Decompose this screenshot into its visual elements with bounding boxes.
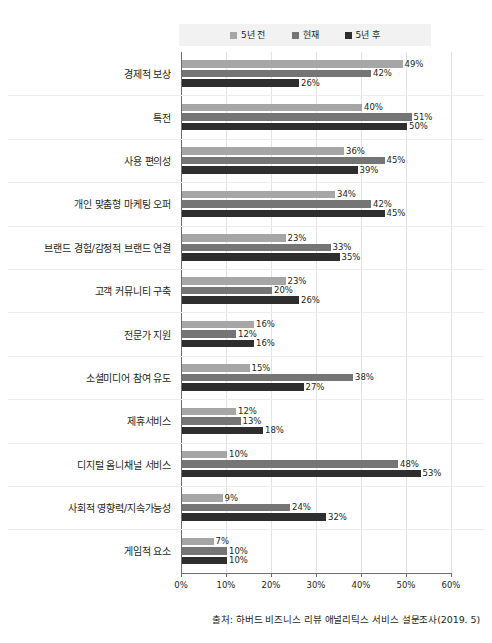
bar[interactable]: [182, 427, 263, 435]
bar-row: 38%: [182, 374, 492, 382]
bar[interactable]: [182, 123, 407, 131]
source-note: 출처: 하버드 비즈니스 리뷰 애널리틱스 서비스 설문조사(2019. 5): [0, 612, 480, 626]
bar-group: 전문가 지원16%12%16%: [0, 312, 492, 355]
bar[interactable]: [182, 383, 304, 391]
category-label: 소셜미디어 참여 유도: [0, 356, 175, 399]
bar[interactable]: [182, 157, 385, 165]
bar[interactable]: [182, 408, 236, 416]
bar-row: 42%: [182, 70, 492, 78]
bar-value-label: 24%: [292, 503, 311, 512]
bar-row: 45%: [182, 210, 492, 218]
bar[interactable]: [182, 253, 340, 261]
bar-row: 33%: [182, 244, 492, 252]
category-label: 사회적 영향력/지속가능성: [0, 486, 175, 529]
bar-value-label: 10%: [229, 556, 248, 565]
bar[interactable]: [182, 277, 286, 285]
legend-swatch-icon: [292, 32, 299, 39]
legend-item-1[interactable]: 현재: [292, 31, 319, 40]
legend-item-0[interactable]: 5년 전: [230, 31, 266, 40]
bar[interactable]: [182, 340, 254, 348]
bar-value-label: 9%: [225, 494, 239, 503]
bar-groups: 경제적 보상49%42%26%특전40%51%50%사용 편의성36%45%39…: [0, 52, 492, 573]
legend-label: 5년 전: [241, 31, 266, 40]
bar-chart: 5년 전현재5년 후 경제적 보상49%42%26%특전40%51%50%사용 …: [0, 0, 492, 643]
legend-swatch-icon: [345, 32, 352, 39]
bar[interactable]: [182, 287, 272, 295]
category-label: 사용 편의성: [0, 139, 175, 182]
bar-row: 16%: [182, 340, 492, 348]
plot-area: 경제적 보상49%42%26%특전40%51%50%사용 편의성36%45%39…: [0, 52, 492, 577]
bar-row: 51%: [182, 113, 492, 121]
bar-value-label: 20%: [274, 286, 293, 295]
bar[interactable]: [182, 104, 362, 112]
bar-row: 18%: [182, 427, 492, 435]
bar[interactable]: [182, 330, 236, 338]
x-tick-label: 20%: [262, 580, 281, 590]
bar[interactable]: [182, 470, 421, 478]
bar[interactable]: [182, 494, 223, 502]
bar-value-label: 38%: [355, 373, 374, 382]
bar[interactable]: [182, 296, 299, 304]
bar[interactable]: [182, 191, 335, 199]
bar[interactable]: [182, 417, 241, 425]
bar[interactable]: [182, 451, 227, 459]
bar-group: 디지털 옴니채널 서비스10%48%53%: [0, 443, 492, 486]
category-label: 고객 커뮤니티 구축: [0, 269, 175, 312]
bar[interactable]: [182, 210, 385, 218]
category-label: 전문가 지원: [0, 312, 175, 355]
x-tick: [406, 573, 407, 577]
bar[interactable]: [182, 147, 344, 155]
category-label: 특전: [0, 95, 175, 138]
bar[interactable]: [182, 460, 398, 468]
bar-value-label: 27%: [306, 383, 325, 392]
bar-set: 10%48%53%: [182, 443, 492, 486]
bar[interactable]: [182, 60, 403, 68]
bar-row: 24%: [182, 504, 492, 512]
x-tick-label: 0%: [174, 580, 188, 590]
bar-row: 15%: [182, 364, 492, 372]
bar[interactable]: [182, 166, 358, 174]
bar[interactable]: [182, 113, 412, 121]
bar-value-label: 33%: [333, 243, 352, 252]
bar[interactable]: [182, 79, 299, 87]
bar-row: 39%: [182, 166, 492, 174]
bar[interactable]: [182, 200, 371, 208]
bar-row: 10%: [182, 451, 492, 459]
bar[interactable]: [182, 557, 227, 565]
x-tick: [271, 573, 272, 577]
bar[interactable]: [182, 244, 331, 252]
bar[interactable]: [182, 234, 286, 242]
x-tick-label: 60%: [442, 580, 461, 590]
bar[interactable]: [182, 70, 371, 78]
bar[interactable]: [182, 374, 353, 382]
legend-item-2[interactable]: 5년 후: [345, 31, 381, 40]
bar-value-label: 42%: [373, 200, 392, 209]
bar-value-label: 13%: [243, 417, 262, 426]
bar-group: 제휴서비스12%13%18%: [0, 399, 492, 442]
x-tick-label: 10%: [217, 580, 236, 590]
bar-value-label: 35%: [342, 253, 361, 262]
bar[interactable]: [182, 513, 326, 521]
bar-row: 45%: [182, 157, 492, 165]
bar-value-label: 12%: [238, 330, 257, 339]
bar[interactable]: [182, 321, 254, 329]
bar-group: 게임적 요소7%10%10%: [0, 529, 492, 572]
bar-row: 12%: [182, 330, 492, 338]
bar-value-label: 45%: [387, 156, 406, 165]
bar-row: 35%: [182, 253, 492, 261]
chart-legend: 5년 전현재5년 후: [179, 24, 431, 46]
bar[interactable]: [182, 364, 250, 372]
bar-value-label: 16%: [256, 320, 275, 329]
bar-row: 23%: [182, 277, 492, 285]
bar-row: 53%: [182, 470, 492, 478]
bar-set: 16%12%16%: [182, 312, 492, 355]
bar[interactable]: [182, 504, 290, 512]
bar-set: 9%24%32%: [182, 486, 492, 529]
x-tick: [181, 573, 182, 577]
bar-row: 27%: [182, 383, 492, 391]
bar-value-label: 23%: [288, 234, 307, 243]
bar-value-label: 49%: [405, 60, 424, 69]
bar[interactable]: [182, 547, 227, 555]
bar[interactable]: [182, 538, 214, 546]
legend-label: 5년 후: [356, 31, 381, 40]
